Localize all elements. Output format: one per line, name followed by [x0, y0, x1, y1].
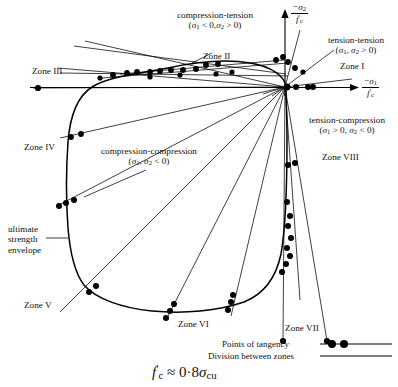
tangency-point [285, 223, 291, 229]
tangency-point [283, 261, 289, 267]
x-axis-denominator: f′c [362, 88, 379, 99]
tangency-point [215, 61, 221, 67]
tangency-point [225, 307, 231, 313]
tangency-point [168, 67, 174, 73]
legend-division-between-zones-swatch [320, 350, 392, 362]
tangency-point [63, 200, 69, 206]
division-line-zone5 [60, 87, 285, 312]
compression-tension-title: compression-tension [177, 10, 253, 20]
zone-label-1: Zone I [340, 61, 364, 71]
compression-compression-title: compression-compression [101, 146, 197, 156]
tangency-point [310, 84, 316, 90]
tangency-point [300, 69, 305, 74]
legend-division-between-zones-label: Division between zones [208, 351, 294, 361]
tangency-point [147, 74, 152, 79]
tangency-point [97, 75, 102, 80]
tangency-point [86, 289, 92, 295]
tangency-point [273, 57, 279, 63]
tension-compression-condition: (σ1 > 0, σ2 < 0) [319, 125, 374, 135]
tangency-point [163, 315, 169, 321]
tangency-point [157, 68, 163, 74]
tangency-point [110, 72, 116, 78]
division-lines-group [33, 30, 352, 341]
x-axis-arrowhead [350, 84, 359, 91]
annotation-tension-tension: tension-tension (σ1, σ2 > 0) [310, 35, 398, 56]
y-axis-fraction: −σ2 f′c [291, 3, 308, 25]
leader-compression-compression [84, 170, 146, 197]
tangency-point [287, 213, 293, 219]
zone-label-2: Zone II [203, 51, 230, 61]
legend-tangency-dot-right [340, 340, 348, 348]
tension-tension-condition: (σ1, σ2 > 0) [336, 45, 377, 55]
tangency-point [293, 84, 299, 90]
ultimate-strength-envelope [67, 61, 288, 312]
legend-points-of-tangency-row: Points of tangency [222, 339, 289, 349]
tangency-point [35, 85, 41, 91]
tangency-point [68, 134, 74, 140]
tangency-point [180, 67, 186, 73]
envelope-curve [67, 61, 288, 312]
tangency-point [292, 65, 298, 71]
formula-caption: f′c ≈ 0·8σcu [152, 362, 217, 381]
tangency-point [56, 203, 62, 209]
annotation-compression-compression: compression-compression (σ1, σ2 < 0) [88, 146, 210, 167]
annotation-ultimate-strength-envelope: ultimate strength envelope [8, 224, 41, 255]
tangency-point [71, 197, 77, 203]
legend-tangency-dot-left [328, 340, 336, 348]
compression-tension-condition: (σ1 < 0,σ2 > 0) [189, 20, 242, 30]
zone-label-3: Zone III [32, 66, 62, 76]
tangency-point [171, 301, 177, 307]
tangency-point [292, 160, 298, 166]
zone-label-4: Zone IV [24, 142, 55, 152]
tangency-point [228, 299, 234, 305]
y-axis-denominator: f′c [291, 14, 308, 25]
x-axis-fraction: −σ1 f′c [362, 77, 379, 99]
annotation-tension-compression: tension-compression (σ1 > 0, σ2 < 0) [296, 115, 398, 136]
tangency-point [177, 72, 182, 77]
formula-approx: ≈ 0·8 [167, 364, 199, 380]
zone-label-7: Zone VII [285, 323, 319, 333]
tangency-point [284, 199, 290, 205]
tangency-point [167, 308, 173, 314]
tangency-point [213, 71, 218, 76]
division-line-secondary-b [60, 73, 288, 76]
tangency-point [93, 283, 99, 289]
zone-label-8: Zone VIII [322, 152, 359, 162]
division-line-secondary-a [74, 46, 286, 74]
tension-tension-title: tension-tension [328, 35, 384, 45]
division-line-tension-tension [285, 30, 300, 87]
y-axis-arrowhead [281, 9, 288, 18]
legend-points-of-tangency-label: Points of tangency [222, 339, 289, 349]
legend-division-between-zones-row: Division between zones [208, 351, 294, 361]
y-axis-label: −σ2 f′c [291, 3, 308, 25]
tangency-point [284, 245, 290, 251]
tangency-point [285, 162, 291, 168]
ultimate-envelope-line-1: ultimate [8, 224, 38, 234]
tangency-point [285, 59, 291, 65]
x-axis-label: −σ1 f′c [362, 77, 379, 99]
tangency-point [78, 131, 84, 137]
tension-compression-title: tension-compression [309, 115, 385, 125]
tangency-point [284, 84, 291, 91]
tangency-point [280, 54, 286, 60]
tangency-point [230, 292, 236, 298]
tangency-point [288, 235, 294, 241]
zone-label-5: Zone V [24, 300, 52, 310]
tangency-point [134, 69, 140, 75]
tangency-point [203, 62, 209, 68]
tangency-point [147, 69, 153, 75]
tangency-point [287, 253, 293, 259]
ultimate-envelope-line-3: envelope [8, 245, 41, 255]
tangency-point [193, 66, 199, 72]
tangency-point [279, 269, 285, 275]
division-line-zone4 [60, 87, 285, 138]
compression-compression-condition: (σ1, σ2 < 0) [129, 156, 170, 166]
division-line-zone6b [231, 87, 285, 316]
ultimate-envelope-line-2: strength [8, 234, 38, 244]
zone-label-6: Zone VI [178, 319, 209, 329]
legend-points-of-tangency-swatch [320, 338, 392, 350]
tangency-point [124, 70, 130, 76]
annotation-compression-tension: compression-tension (σ1 < 0,σ2 > 0) [150, 10, 280, 31]
tangency-point [229, 69, 234, 74]
